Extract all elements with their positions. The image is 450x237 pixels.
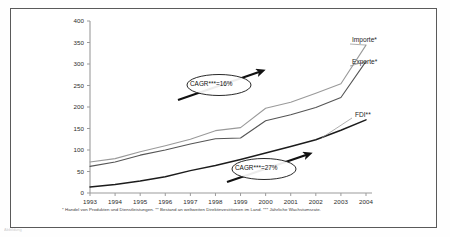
leader-importe <box>350 44 366 45</box>
figure-container: 050100150200250300350400 199319941995199… <box>0 0 450 237</box>
x-tick-2004: 2004 <box>353 198 379 205</box>
chart-series <box>90 45 366 187</box>
y-tick-0: 0 <box>56 189 84 196</box>
x-tick-2003: 2003 <box>328 198 354 205</box>
y-tick-150: 150 <box>56 125 84 132</box>
chart-axes <box>87 21 372 196</box>
x-tick-1993: 1993 <box>77 198 103 205</box>
series-label-exporte: Exporte* <box>352 58 377 65</box>
series-line-fdi <box>90 120 366 187</box>
x-tick-1997: 1997 <box>177 198 203 205</box>
series-label-fdi: FDI** <box>355 111 371 118</box>
y-tick-300: 300 <box>56 60 84 67</box>
series-label-importe: Importe* <box>352 36 377 43</box>
x-tick-1999: 1999 <box>228 198 254 205</box>
y-tick-250: 250 <box>56 82 84 89</box>
y-tick-200: 200 <box>56 103 84 110</box>
y-tick-350: 350 <box>56 39 84 46</box>
chart-annotations <box>178 44 366 182</box>
x-tick-1995: 1995 <box>127 198 153 205</box>
annotation-cagr-trade-label: CAGR***=16% <box>190 80 232 87</box>
x-tick-1998: 1998 <box>202 198 228 205</box>
x-tick-1994: 1994 <box>102 198 128 205</box>
x-tick-1996: 1996 <box>152 198 178 205</box>
scan-artifact-text: Abbildung <box>4 227 124 236</box>
x-tick-2000: 2000 <box>253 198 279 205</box>
y-tick-400: 400 <box>56 17 84 24</box>
x-tick-2002: 2002 <box>303 198 329 205</box>
y-tick-100: 100 <box>56 146 84 153</box>
chart-footnote: * Handel von Produkten und Dienstleistun… <box>62 207 402 212</box>
x-tick-2001: 2001 <box>278 198 304 205</box>
y-tick-50: 50 <box>56 168 84 175</box>
annotation-cagr-fdi-label: CAGR***=27% <box>235 164 277 171</box>
